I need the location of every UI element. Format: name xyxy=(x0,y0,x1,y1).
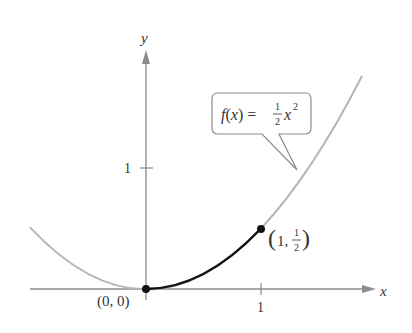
point-label: ( 1, 1 2 ) xyxy=(268,225,310,253)
y-axis-label: y xyxy=(139,30,148,46)
y-tick-label-1: 1 xyxy=(124,161,131,176)
point-label-den: 2 xyxy=(294,242,299,253)
highlighted-arc xyxy=(146,229,261,290)
callout-fraction-den: 2 xyxy=(275,116,280,127)
callout-function-text: f(x) = xyxy=(221,106,256,124)
x-axis: x 1 xyxy=(30,283,387,315)
origin-point xyxy=(142,285,150,293)
point-1-half xyxy=(257,225,265,233)
y-axis-arrow-icon xyxy=(142,50,150,64)
chart-canvas: x 1 y 1 (0, 0) ( 1, 1 2 ) f(x) = 1 2 xyxy=(0,0,412,333)
point-label-num: 1 xyxy=(294,227,299,238)
x-axis-label: x xyxy=(379,283,387,299)
point-label-open: ( xyxy=(268,225,276,251)
point-label-x: 1, xyxy=(277,233,288,249)
y-axis: y 1 xyxy=(124,30,153,300)
x-tick-label-1: 1 xyxy=(257,300,264,315)
point-label-close: ) xyxy=(302,225,310,251)
origin-label: (0, 0) xyxy=(97,293,130,310)
callout-var: x xyxy=(283,106,291,123)
callout-fraction-num: 1 xyxy=(275,101,280,112)
function-callout: f(x) = 1 2 x 2 xyxy=(212,93,311,170)
callout-exponent: 2 xyxy=(293,101,298,112)
parabola-curve xyxy=(30,76,362,289)
x-axis-arrow-icon xyxy=(362,285,376,293)
